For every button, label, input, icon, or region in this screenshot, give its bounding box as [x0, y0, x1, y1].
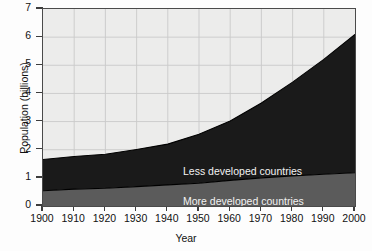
y-tick-label: 0	[0, 199, 31, 209]
x-axis-title: Year	[0, 232, 372, 244]
y-tick-label: 2	[0, 143, 31, 153]
plot-area: Less developed countries More developed …	[42, 8, 356, 207]
series-label-less-developed: Less developed countries	[183, 165, 302, 177]
y-tick-label: 5	[0, 58, 31, 68]
y-tick-label: 4	[0, 86, 31, 96]
y-tick-label: 6	[0, 30, 31, 40]
y-tick-label: 1	[0, 171, 31, 181]
y-tick-label: 7	[0, 2, 31, 12]
y-tick-label: 3	[0, 115, 31, 125]
population-area-chart: Population (billions) Year 01234567 1900…	[0, 0, 372, 251]
y-axis-title: Population (billions)	[18, 28, 30, 188]
x-tick-label: 2000	[334, 213, 372, 224]
series-label-more-developed: More developed countries	[183, 195, 304, 207]
